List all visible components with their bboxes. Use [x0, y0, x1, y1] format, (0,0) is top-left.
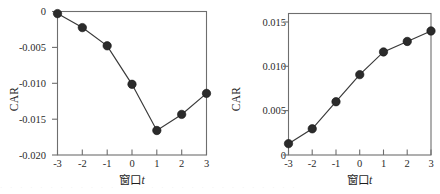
- figure-container: CAR 0 -0.005 -0.010 -0.015 -0.020: [0, 0, 440, 194]
- chart-panel-right: CAR 0.015 0.010 0.005 0 -3 -2 -1: [220, 0, 440, 194]
- chart-panel-left: CAR 0 -0.005 -0.010 -0.015 -0.020: [0, 0, 220, 194]
- x-tick-label: 0: [129, 158, 134, 169]
- x-tick-label: -2: [308, 158, 317, 169]
- y-tick-label: -0.015: [19, 114, 46, 125]
- series-markers-right: [284, 27, 435, 148]
- x-tick-label: 2: [405, 158, 410, 169]
- x-tick-label: -2: [78, 158, 87, 169]
- data-point-marker: [356, 70, 364, 78]
- x-tick-label: 0: [357, 158, 362, 169]
- data-point-marker: [308, 125, 316, 133]
- x-tick-label: 2: [179, 158, 184, 169]
- y-axis-label-right: CAR: [230, 87, 242, 112]
- y-tick-label: 0.005: [262, 105, 286, 116]
- x-tick-label: 3: [204, 158, 209, 169]
- y-axis-label-left: CAR: [8, 87, 20, 112]
- y-tick-label: -0.020: [19, 150, 46, 161]
- x-tick-label: 1: [154, 158, 159, 169]
- chart-right-svg: CAR 0.015 0.010 0.005 0 -3 -2 -1: [220, 0, 440, 194]
- x-tick-label: -3: [284, 158, 293, 169]
- data-point-marker: [403, 37, 411, 45]
- plot-frame-right: [289, 14, 432, 156]
- x-tick-label: -1: [103, 158, 112, 169]
- y-tick-label: -0.010: [19, 78, 46, 89]
- data-point-marker: [177, 110, 185, 118]
- data-point-marker: [103, 42, 111, 50]
- data-point-marker: [332, 98, 340, 106]
- data-point-marker: [128, 80, 136, 88]
- data-point-marker: [202, 89, 210, 97]
- footer-artifact: · · · · · · · · · · · · · · · · · · · · …: [0, 184, 440, 194]
- x-tick-label: -1: [332, 158, 341, 169]
- x-tick-label: 3: [428, 158, 433, 169]
- data-point-marker: [53, 9, 61, 17]
- data-point-marker: [379, 48, 387, 56]
- data-point-marker: [427, 27, 435, 35]
- x-tick-label: -3: [53, 158, 62, 169]
- series-markers-left: [53, 9, 210, 134]
- data-point-marker: [284, 139, 292, 147]
- y-tick-label: -0.005: [19, 42, 46, 53]
- y-tick-label: 0.010: [262, 61, 286, 72]
- y-tick-label: 0: [41, 6, 46, 17]
- x-tick-label: 1: [381, 158, 386, 169]
- chart-left-svg: CAR 0 -0.005 -0.010 -0.015 -0.020: [0, 0, 220, 194]
- data-point-marker: [78, 23, 86, 31]
- data-point-marker: [153, 126, 161, 134]
- y-tick-label: 0.015: [262, 17, 286, 28]
